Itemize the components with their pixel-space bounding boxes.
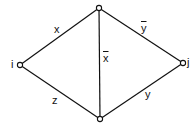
node-label-i: i [11,59,13,70]
edge-label-z: z [52,95,58,106]
edge-bottom-j [100,63,183,119]
edge-top-bottom [99,8,100,119]
edge-label-y-bar: y [141,23,147,34]
graph-edges [0,0,196,130]
node-top [96,5,101,10]
edge-label-y: y [145,89,151,100]
edge-label-x-bar: x [103,53,109,64]
edge-i-bottom [20,65,100,119]
node-i [17,62,22,67]
edge-i-top [20,8,99,65]
node-label-j: j [187,57,189,68]
graph-diagram: i j x y x z y [0,0,196,130]
edge-label-x: x [54,24,60,35]
node-j [180,60,185,65]
node-bottom [97,116,102,121]
edge-top-j [99,8,183,63]
